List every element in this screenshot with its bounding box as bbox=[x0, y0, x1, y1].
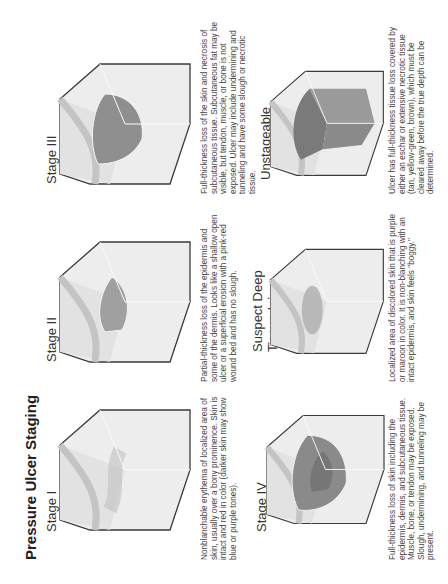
suspect-dti-illustration bbox=[262, 222, 392, 372]
unstageable-illustration bbox=[262, 44, 392, 194]
stage-1-description: Nonblanchable erythema of localized area… bbox=[200, 385, 238, 560]
unstageable-description: Ulcer has full-thickness tissue loss cov… bbox=[388, 19, 436, 194]
stage-4-illustration bbox=[258, 390, 393, 540]
stage-3-illustration bbox=[50, 44, 200, 194]
stage-2-illustration bbox=[50, 222, 200, 372]
stage-1-illustration bbox=[50, 390, 200, 540]
suspect-dti-description: Localized area of discolored skin that i… bbox=[388, 207, 417, 382]
stage-3-description: Full-thickness loss of the skin and necr… bbox=[200, 19, 258, 194]
stage-4-description: Full-thickness loss of skin including th… bbox=[388, 385, 436, 560]
stage-2-description: Partial-thickness loss of the epidermis … bbox=[200, 207, 238, 382]
pressure-ulcer-staging-page: Pressure Ulcer Staging Stage I Nonblanch… bbox=[0, 0, 448, 584]
page-title: Pressure Ulcer Staging bbox=[22, 395, 39, 560]
